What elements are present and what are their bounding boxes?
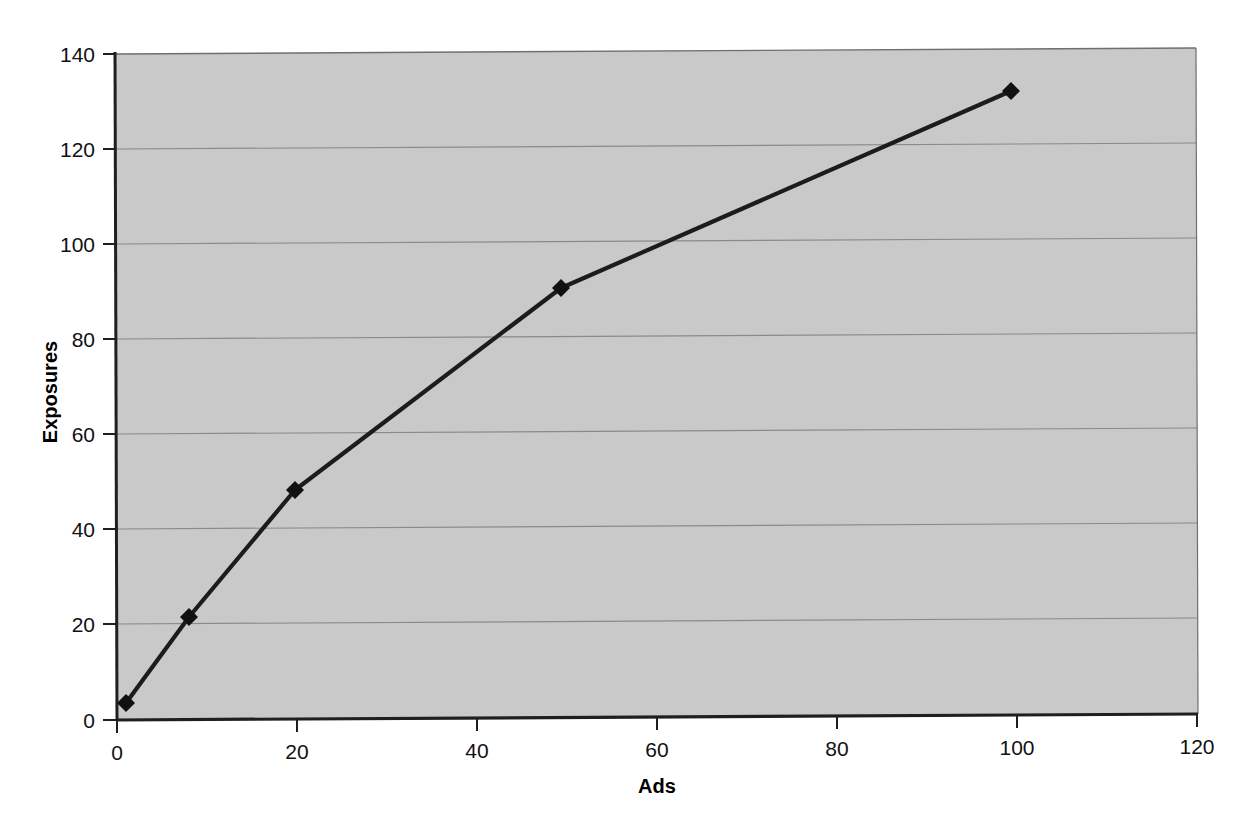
y-tick-label-140: 140: [60, 43, 95, 66]
line-chart: 140 120 100 80 60 40 20 0 0 20 40 60 80 …: [0, 0, 1254, 824]
x-tick-label-120: 120: [1179, 735, 1214, 758]
y-tick-label-80: 80: [72, 328, 95, 351]
y-tick-label-20: 20: [72, 613, 95, 636]
y-axis-title: Exposures: [39, 341, 61, 443]
x-tick-label-80: 80: [825, 737, 848, 760]
x-tick-label-0: 0: [111, 741, 123, 764]
x-tick-label-20: 20: [285, 740, 308, 763]
y-tick-label-40: 40: [72, 518, 95, 541]
y-tick-label-0: 0: [83, 709, 95, 732]
x-tick-label-100: 100: [999, 736, 1034, 759]
chart-figure: 140 120 100 80 60 40 20 0 0 20 40 60 80 …: [0, 0, 1254, 824]
x-axis-title: Ads: [638, 775, 676, 797]
y-tick-label-60: 60: [72, 423, 95, 446]
y-axis-line: [115, 52, 117, 721]
x-tick-label-60: 60: [645, 738, 668, 761]
y-tick-label-120: 120: [60, 138, 95, 161]
y-tick-label-100: 100: [60, 233, 95, 256]
x-tick-label-40: 40: [465, 739, 488, 762]
